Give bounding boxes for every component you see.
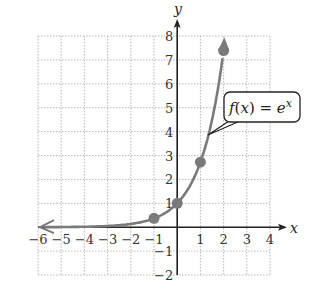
y-tick-label: −1 xyxy=(154,244,173,259)
x-tick-label: 4 xyxy=(266,232,274,247)
data-point xyxy=(172,198,183,209)
data-point xyxy=(218,45,229,56)
function-label: f(x) = ex xyxy=(228,97,293,117)
x-tick-label: 3 xyxy=(243,232,251,247)
y-axis-label: y xyxy=(173,1,183,17)
x-tick-label: −3 xyxy=(98,232,117,247)
y-tick-label: −2 xyxy=(154,268,173,283)
x-axis-label: x xyxy=(290,220,298,236)
x-tick-label: 2 xyxy=(219,232,227,247)
y-tick-label: 6 xyxy=(165,77,173,92)
y-tick-label: 8 xyxy=(165,29,173,44)
x-tick-label: 1 xyxy=(196,232,204,247)
data-point xyxy=(149,213,160,224)
data-point xyxy=(195,157,206,168)
marked-points xyxy=(149,45,230,224)
y-tick-label: 4 xyxy=(165,125,173,140)
exp-curve xyxy=(45,59,222,227)
x-tick-label: −2 xyxy=(121,232,140,247)
y-tick-label: 5 xyxy=(165,101,173,116)
exponential-graph: −6−5−4−3−2−11234−2−112345678 f(x) = ex x… xyxy=(0,0,314,303)
x-tick-label: −5 xyxy=(52,232,71,247)
y-tick-label: 7 xyxy=(165,53,173,68)
x-tick-label: −6 xyxy=(28,232,47,247)
x-tick-label: −4 xyxy=(75,232,94,247)
function-label-callout: f(x) = ex xyxy=(208,92,300,135)
y-tick-label: 3 xyxy=(165,149,173,164)
y-tick-label: 2 xyxy=(165,172,173,187)
